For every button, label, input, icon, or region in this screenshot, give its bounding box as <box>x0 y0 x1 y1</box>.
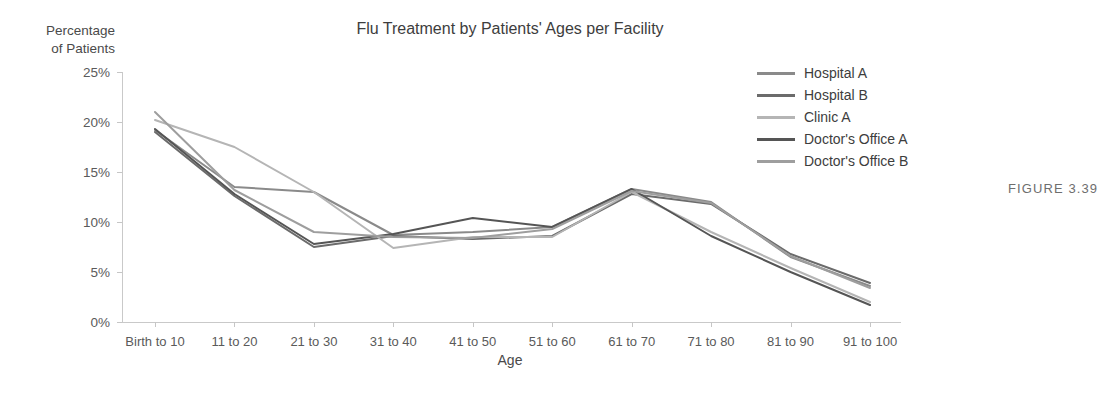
y-tick-label: 5% <box>64 265 110 280</box>
y-tick-mark <box>117 72 122 73</box>
legend-label: Doctor's Office A <box>804 131 908 147</box>
x-tick-label: Birth to 10 <box>125 334 184 349</box>
y-tick-label: 25% <box>64 65 110 80</box>
x-tick-label: 51 to 60 <box>529 334 576 349</box>
y-tick-mark <box>117 272 122 273</box>
x-tick-mark <box>552 322 553 327</box>
x-tick-mark <box>632 322 633 327</box>
x-tick-label: 41 to 50 <box>449 334 496 349</box>
legend-label: Doctor's Office B <box>804 153 908 169</box>
legend-label: Clinic A <box>804 109 851 125</box>
figure-number-caption: FIGURE 3.39 <box>1008 181 1098 196</box>
x-tick-label: 31 to 40 <box>370 334 417 349</box>
x-axis-title: Age <box>370 352 650 368</box>
legend-item[interactable]: Hospital A <box>757 62 908 84</box>
y-tick-mark <box>117 172 122 173</box>
x-axis-line <box>122 322 901 323</box>
x-tick-label: 81 to 90 <box>767 334 814 349</box>
x-tick-mark <box>155 322 156 327</box>
y-axis-title-line-1: Percentage <box>10 22 115 40</box>
x-tick-label: 61 to 70 <box>608 334 655 349</box>
x-tick-label: 11 to 20 <box>211 334 257 349</box>
y-axis-title: Percentage of Patients <box>10 22 115 58</box>
x-tick-label: 91 to 100 <box>843 334 897 349</box>
y-tick-label: 15% <box>64 165 110 180</box>
x-tick-label: 71 to 80 <box>688 334 735 349</box>
y-tick-label: 20% <box>64 115 110 130</box>
legend-label: Hospital A <box>804 65 867 81</box>
legend-swatch-icon <box>757 160 795 163</box>
y-axis-title-line-2: of Patients <box>10 40 115 58</box>
legend-item[interactable]: Doctor's Office A <box>757 128 908 150</box>
x-tick-mark <box>711 322 712 327</box>
x-tick-mark <box>473 322 474 327</box>
x-tick-mark <box>791 322 792 327</box>
legend-swatch-icon <box>757 116 795 119</box>
x-tick-mark <box>870 322 871 327</box>
legend-item[interactable]: Clinic A <box>757 106 908 128</box>
x-tick-label: 21 to 30 <box>290 334 337 349</box>
chart-legend: Hospital AHospital BClinic ADoctor's Off… <box>757 62 908 172</box>
y-tick-mark <box>117 322 122 323</box>
y-tick-mark <box>117 222 122 223</box>
y-tick-label: 0% <box>64 315 110 330</box>
figure-container: Flu Treatment by Patients' Ages per Faci… <box>0 0 1116 394</box>
legend-swatch-icon <box>757 94 795 97</box>
legend-item[interactable]: Hospital B <box>757 84 908 106</box>
x-tick-mark <box>314 322 315 327</box>
legend-label: Hospital B <box>804 87 868 103</box>
x-tick-mark <box>234 322 235 327</box>
chart-title: Flu Treatment by Patients' Ages per Faci… <box>200 20 820 38</box>
legend-swatch-icon <box>757 138 795 141</box>
x-tick-mark <box>393 322 394 327</box>
legend-swatch-icon <box>757 72 795 75</box>
y-tick-mark <box>117 122 122 123</box>
y-tick-label: 10% <box>64 215 110 230</box>
legend-item[interactable]: Doctor's Office B <box>757 150 908 172</box>
